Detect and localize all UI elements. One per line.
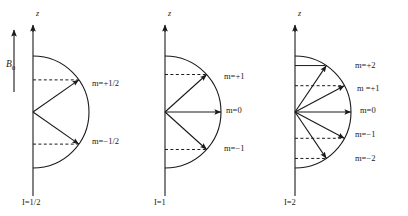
spin-vector-p1-2 <box>33 112 79 144</box>
diagram-geometry <box>14 25 351 196</box>
m-label-panel-3-1: m =+1 <box>357 84 380 93</box>
spin-vector-p2-3 <box>165 112 207 149</box>
m-label-panel-1-1: m=−1/2 <box>92 137 119 146</box>
spin-vector-p1-1 <box>33 80 79 112</box>
spin-vector-p3-4 <box>295 112 344 138</box>
m-label-panel-3-2: m=0 <box>360 106 376 115</box>
vector-model-svg <box>0 0 408 216</box>
spin-vector-p3-5 <box>295 112 326 158</box>
m-label-panel-2-2: m=−1 <box>224 144 244 153</box>
spin-label-panel-2: I=1 <box>154 198 166 207</box>
spin-vector-p2-1 <box>165 75 207 112</box>
z-axis-label-panel-2: z <box>168 10 171 18</box>
field-subscript: 0 <box>12 64 16 72</box>
m-label-panel-3-4: m=−2 <box>355 154 375 163</box>
field-label-b0: B0 <box>6 60 15 72</box>
m-label-panel-2-1: m=0 <box>226 106 242 115</box>
spin-label-panel-3: I=2 <box>284 198 296 207</box>
m-label-panel-2-0: m=+1 <box>224 72 244 81</box>
m-label-panel-3-0: m=+2 <box>355 61 375 70</box>
m-label-panel-1-0: m=+1/2 <box>92 79 119 88</box>
spin-vector-p3-2 <box>295 86 344 112</box>
arc-panel-1 <box>33 56 89 168</box>
z-axis-label-panel-1: z <box>36 10 39 18</box>
spin-label-panel-1: I=1/2 <box>22 198 41 207</box>
figure-canvas: B0 z z z I=1/2 I=1 I=2 m=+1/2 m=−1/2 m=+… <box>0 0 408 216</box>
z-axis-label-panel-3: z <box>298 10 301 18</box>
spin-vector-p3-1 <box>295 66 326 112</box>
m-label-panel-3-3: m=−1 <box>355 130 375 139</box>
